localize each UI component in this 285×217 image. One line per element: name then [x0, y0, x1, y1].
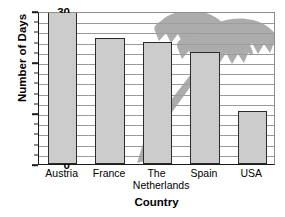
bars-layer [39, 13, 274, 164]
bar-usa [238, 111, 267, 164]
bar-spain [190, 52, 219, 164]
bar-the-netherlands [143, 42, 172, 164]
x-axis-title: Country [38, 196, 275, 208]
x-tick-label: Austria [38, 168, 85, 180]
x-tick-label: France [85, 168, 132, 180]
plot-area [38, 12, 275, 165]
bar-france [95, 38, 124, 164]
x-axis-labels: AustriaFranceTheNetherlandsSpainUSA [38, 168, 275, 198]
x-tick-label: Spain [180, 168, 227, 180]
bar-chart: Number of Days 0102030 AustriaFranceTheN… [0, 0, 285, 217]
y-axis-title: Number of Days [16, 0, 28, 128]
x-tick-label: USA [228, 168, 275, 180]
bar-austria [48, 12, 77, 164]
x-tick-label: TheNetherlands [133, 168, 180, 191]
